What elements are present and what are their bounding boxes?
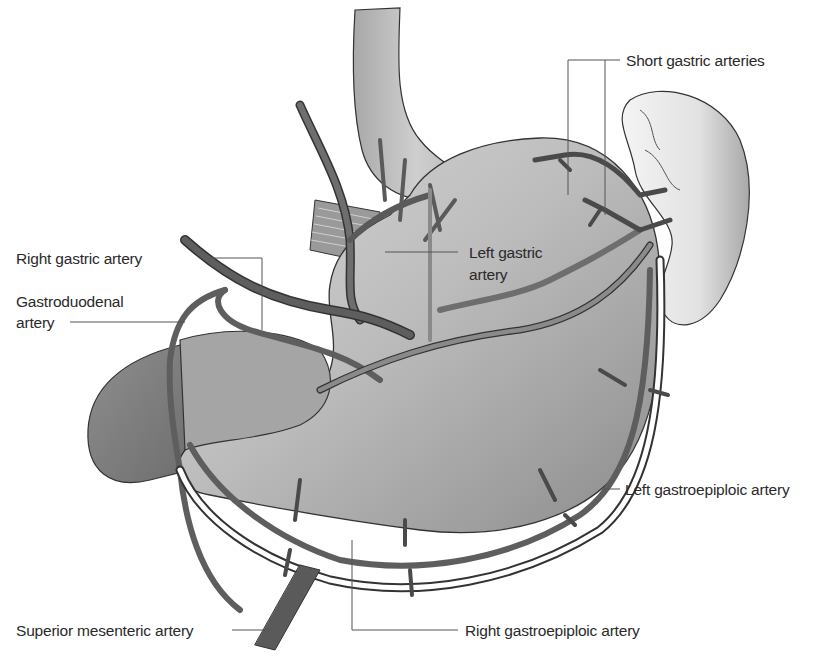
label-left-gastric-line2: artery	[469, 265, 507, 284]
stomach-artery-diagram	[0, 0, 829, 660]
label-left-gastroepiploic-artery: Left gastroepiploic artery	[625, 480, 790, 499]
label-right-gastric-artery: Right gastric artery	[16, 249, 142, 268]
label-gastroduodenal-line2: artery	[16, 313, 54, 332]
label-left-gastric-line1: Left gastric	[469, 243, 542, 262]
label-short-gastric-arteries: Short gastric arteries	[626, 51, 765, 70]
label-right-gastroepiploic-artery: Right gastroepiploic artery	[465, 621, 640, 640]
label-gastroduodenal-line1: Gastroduodenal	[16, 292, 124, 311]
label-superior-mesenteric-artery: Superior mesenteric artery	[16, 621, 193, 640]
